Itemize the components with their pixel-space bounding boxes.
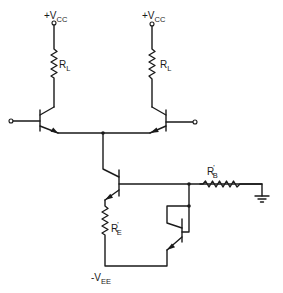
vcc-right-label: +VCC (142, 10, 166, 24)
q2-emitter-arrow-icon (150, 128, 159, 133)
ground-icon (255, 196, 269, 202)
transistor-q2 (150, 107, 197, 133)
transistor-q1 (9, 107, 58, 133)
resistor-rl-right: RL (149, 26, 171, 107)
output-right-terminal (193, 120, 197, 124)
q1-emitter-arrow-icon (51, 128, 59, 133)
resistor-rb: R'B (200, 163, 262, 196)
rb-label: R'B (207, 163, 218, 180)
resistor-rl-left: RL (51, 25, 70, 107)
vcc-left-terminal: +VCC (44, 10, 68, 25)
vee-label: -VEE (91, 272, 111, 286)
rl-right-label: RL (160, 59, 171, 73)
transistor-q3 (103, 133, 262, 200)
circuit-diagram: +VCC RL +VCC RL (0, 0, 283, 293)
common-emitter-node (58, 131, 150, 135)
rl-left-label: RL (59, 59, 70, 73)
resistor-re: R'E (102, 200, 167, 266)
re-label: R'E (111, 220, 122, 237)
vcc-right-terminal: +VCC (142, 10, 166, 26)
transistor-q4 (167, 184, 191, 250)
